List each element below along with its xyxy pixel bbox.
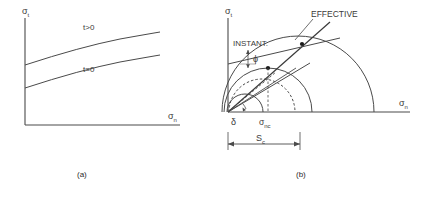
panel-a-y-axis-label: σt xyxy=(22,6,30,18)
sigma-nc-label: σnc xyxy=(259,117,271,129)
delta-angle-indicator xyxy=(243,104,247,112)
panel-a: σt σn t>0 t=0 xyxy=(22,6,180,125)
figure-canvas: σt σn t>0 t=0 σt σn xyxy=(0,0,425,200)
panel-b-caption: (b) xyxy=(296,170,306,179)
sc-label: Sc xyxy=(256,133,265,145)
panel-a-curve-upper-label: t>0 xyxy=(83,23,95,32)
delta-label: δ xyxy=(231,117,236,127)
construction-line-dashed xyxy=(228,72,276,112)
panel-a-curve-upper xyxy=(25,32,160,65)
panel-b: σt σn EFFECTIVE INSTANT. xyxy=(222,6,410,150)
envelope-effective-line xyxy=(228,22,330,112)
panel-b-x-axis-label: σn xyxy=(399,98,408,110)
phi-label: ϕ xyxy=(253,54,258,64)
tangent-point-outer xyxy=(300,42,304,46)
effective-label: EFFECTIVE xyxy=(311,9,358,19)
panel-b-y-axis-label: σt xyxy=(225,6,233,18)
panel-a-curve-lower-label: t=0 xyxy=(83,65,95,74)
instant-label: INSTANT. xyxy=(233,39,268,48)
panel-a-caption: (a) xyxy=(77,170,87,179)
panel-a-x-axis-label: σn xyxy=(168,111,177,123)
